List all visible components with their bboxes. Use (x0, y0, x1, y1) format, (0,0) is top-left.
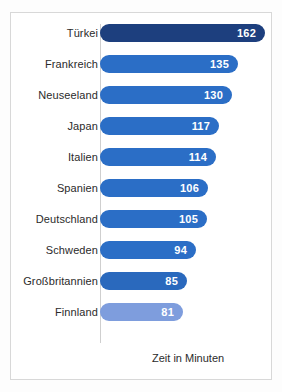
bar-shape: 106 (100, 179, 208, 197)
bar-value-label: 135 (210, 55, 229, 73)
bar-category-label: Großbritannien (23, 272, 98, 290)
bar-shape: 130 (100, 86, 232, 104)
bar-row: Italien114 (0, 148, 282, 179)
bar-track: 81 (100, 303, 183, 321)
bar-row: Frankreich135 (0, 55, 282, 86)
bar-value-label: 94 (174, 241, 187, 259)
bar-value-label: 117 (192, 117, 210, 135)
bar-track: 94 (100, 241, 196, 259)
bar-row: Schweden94 (0, 241, 282, 272)
bar-category-label: Deutschland (36, 210, 98, 228)
bar-category-label: Neuseeland (38, 86, 98, 104)
bar-row: Japan117 (0, 117, 282, 148)
bar-row: Finnland81 (0, 303, 282, 334)
bar-category-label: Türkei (67, 24, 98, 42)
bars-area: Türkei162Frankreich135Neuseeland130Japan… (0, 24, 282, 344)
bar-track: 117 (100, 117, 219, 135)
bar-track: 106 (100, 179, 208, 197)
bar-row: Großbritannien85 (0, 272, 282, 303)
bar-category-label: Spanien (57, 179, 98, 197)
bar-category-label: Italien (68, 148, 98, 166)
bar-shape: 105 (100, 210, 207, 228)
bar-value-label: 81 (161, 303, 174, 321)
bar-track: 114 (100, 148, 216, 166)
bar-chart-figure: Türkei162Frankreich135Neuseeland130Japan… (0, 0, 282, 392)
bar-track: 162 (100, 24, 265, 42)
bar-row: Neuseeland130 (0, 86, 282, 117)
bar-row: Türkei162 (0, 24, 282, 55)
bar-shape: 114 (100, 148, 216, 166)
bar-shape: 135 (100, 55, 238, 73)
bar-shape: 81 (100, 303, 183, 321)
bar-value-label: 162 (237, 24, 256, 42)
cropped-caption (10, 385, 272, 392)
bar-value-label: 114 (189, 148, 207, 166)
bar-shape: 94 (100, 241, 196, 259)
bar-track: 130 (100, 86, 232, 104)
bar-value-label: 130 (204, 86, 223, 104)
bar-shape: 162 (100, 24, 265, 42)
bar-shape: 117 (100, 117, 219, 135)
bar-track: 105 (100, 210, 207, 228)
bar-value-label: 85 (165, 272, 178, 290)
axis-unit-label: Zeit in Minuten (152, 352, 224, 364)
bar-track: 85 (100, 272, 187, 290)
bar-category-label: Japan (68, 117, 98, 135)
bar-category-label: Schweden (46, 241, 98, 259)
bar-track: 135 (100, 55, 238, 73)
bar-shape: 85 (100, 272, 187, 290)
bar-row: Deutschland105 (0, 210, 282, 241)
bar-category-label: Frankreich (45, 55, 98, 73)
bar-value-label: 105 (179, 210, 198, 228)
bar-row: Spanien106 (0, 179, 282, 210)
bar-category-label: Finnland (55, 303, 98, 321)
bar-value-label: 106 (180, 179, 199, 197)
